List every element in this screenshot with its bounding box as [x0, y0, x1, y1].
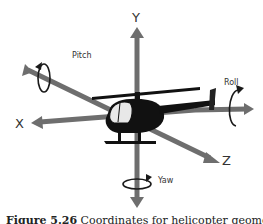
roll-rotation-arrow — [229, 85, 244, 126]
pitch-label: Pitch — [72, 52, 91, 60]
z-axis-label: Z — [222, 154, 231, 167]
caption-text: Coordinates for helicopter geometry — [81, 214, 263, 224]
yaw-label: Yaw — [158, 177, 173, 185]
helicopter-icon — [92, 87, 216, 144]
y-axis-label: Y — [132, 11, 140, 24]
helicopter-axes-diagram — [0, 0, 263, 224]
roll-label: Roll — [224, 79, 239, 87]
x-axis-label: X — [15, 117, 24, 130]
figure-number: Figure 5.26 — [6, 214, 77, 224]
figure-caption: Figure 5.26 Coordinates for helicopter g… — [6, 214, 263, 224]
